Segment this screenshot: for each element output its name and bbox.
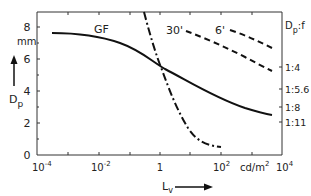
x-tick-labels: 10-4 10-2 1 102 cd/m2 104 [32, 160, 294, 173]
y2-tick-1-11: 1:11 [285, 117, 306, 128]
y-axis-label: Dp [9, 93, 23, 109]
label-gf: GF [94, 23, 109, 36]
y2-tick-labels: 1:4 1:5.6 1:8 1:11 [285, 62, 309, 128]
x-tick-1e4: 104 [276, 160, 294, 173]
y2-tick-1-4: 1:4 [285, 62, 300, 73]
y-tick-4: 4 [24, 85, 31, 98]
x-tick-1e-2: 10-2 [91, 160, 111, 173]
y2-tick-1-8: 1:8 [285, 102, 300, 113]
label-6min: 6' [215, 24, 225, 37]
label-30min: 30' [166, 24, 183, 37]
y-tick-2: 2 [24, 117, 31, 130]
y-unit-label: mm [17, 36, 36, 47]
x-tick-1e-4: 10-4 [32, 160, 52, 173]
y-tick-0: 0 [24, 149, 31, 162]
x-tick-1e2: 102 [213, 160, 230, 173]
y-tick-6: 6 [24, 53, 31, 66]
curve-30min [186, 31, 272, 71]
curve-6min [230, 30, 272, 48]
x-axis-label: Lv [162, 180, 173, 195]
x-tick-1: 1 [157, 162, 163, 173]
y-tick-8: 8 [24, 21, 31, 34]
x-axis-arrow-icon [175, 184, 213, 191]
y-axis-arrow-icon [11, 55, 18, 86]
curve-gf [52, 33, 272, 115]
x-unit-label: cd/m2 [240, 160, 269, 173]
y2-axis-label: Dp:f [285, 20, 305, 35]
y2-tick-1-5-6: 1:5.6 [285, 84, 309, 95]
chart: 8 6 4 2 0 mm Dp Dp:f 1:4 1:5.6 1:8 1:11 … [0, 0, 311, 196]
